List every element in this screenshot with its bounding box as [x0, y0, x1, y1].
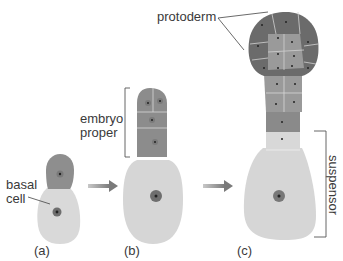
suspensor-label: suspensor — [326, 150, 340, 220]
panel-c-caption: (c) — [237, 244, 252, 258]
embryo-proper-label-line2: proper — [80, 126, 118, 140]
panel-a-caption: (a) — [34, 244, 50, 258]
suspensor-cell-shape — [123, 160, 183, 244]
arrow-a-to-b-icon — [88, 180, 118, 192]
panel-a-two-cell-embryo — [28, 154, 80, 244]
protoderm-label: protoderm — [157, 10, 216, 24]
embryo-proper-bracket — [125, 88, 130, 157]
panel-b-embryo — [123, 88, 183, 244]
embryo-proper-label-line1: embryo — [80, 112, 123, 126]
suspensor-bracket — [314, 131, 326, 237]
panel-b-caption: (b) — [124, 244, 140, 258]
arrow-b-to-c-icon — [203, 180, 233, 192]
basal-cell-label-line1: basal — [6, 178, 37, 192]
embryo-development-diagram — [0, 0, 343, 261]
basal-cell-label-line2: cell — [6, 192, 26, 206]
panel-c-embryo — [218, 12, 326, 240]
